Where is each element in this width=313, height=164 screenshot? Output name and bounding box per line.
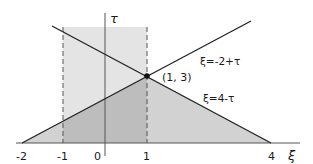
intersection-point (144, 73, 150, 79)
xi-axis-label: ξ (287, 148, 296, 163)
convolution-region-diagram: τ ξ -2 -1 0 1 4 ξ=-2+τ ξ=4-τ (1, 3) (0, 0, 313, 164)
intersection-label: (1, 3) (162, 71, 192, 84)
tick-label: 1 (143, 150, 150, 163)
equation-label-rising: ξ=-2+τ (200, 55, 240, 67)
tick-label: 4 (268, 150, 275, 163)
equation-label-falling: ξ=4-τ (203, 92, 234, 104)
tick-label: -1 (57, 150, 68, 163)
tick-label: 0 (94, 150, 101, 163)
tau-axis-label: τ (110, 11, 118, 26)
tick-label: -2 (16, 150, 27, 163)
